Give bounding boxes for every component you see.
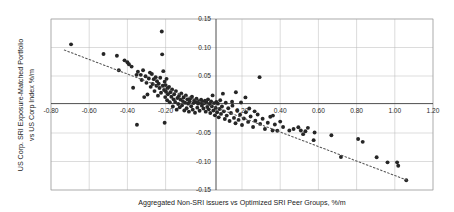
x-tick-label: -0.20 [158,107,173,114]
data-point [154,75,158,79]
data-point [253,109,257,113]
y-tick-label: 0.15 [198,15,211,22]
data-point [251,125,255,129]
data-point [329,133,333,137]
x-tick-label: -0.60 [82,107,97,114]
x-tick-label: -0.80 [43,107,58,114]
data-point [160,52,164,56]
y-tick-label: -0.05 [196,129,211,136]
data-point [193,111,197,115]
data-point [231,104,235,108]
data-point [115,54,119,58]
data-point [220,105,224,109]
data-point [153,89,157,93]
data-point [141,68,145,72]
data-point [224,101,228,105]
data-point [361,140,365,144]
data-point [234,90,238,94]
gridlines [51,19,433,190]
data-point [292,127,296,131]
y-axis-title-line1: US Corp. SRI Exposure-Matched Portfolio [17,39,25,172]
data-point [163,121,167,125]
data-point [131,86,135,90]
data-point [161,69,165,73]
data-point [217,115,221,119]
x-tick-label: 0.80 [350,107,363,114]
data-point [237,118,241,122]
data-point [281,125,285,129]
x-tick-label: 0.60 [312,107,325,114]
data-point [356,137,360,141]
data-point [195,106,199,110]
data-point [189,104,193,108]
data-point [168,100,172,104]
data-point [249,115,253,119]
x-tick-label: 1.00 [388,107,401,114]
data-point [299,128,303,132]
data-point [223,117,227,121]
data-point [278,120,282,124]
data-point [176,102,180,106]
x-tick-label: 1.20 [427,107,440,114]
data-point [256,113,260,117]
data-point [150,72,154,76]
x-tick-label: -0.40 [120,107,135,114]
data-point [208,111,212,115]
data-point [235,109,239,113]
data-point [142,95,146,99]
y-tick-label: 0.05 [198,72,211,79]
data-point [171,105,175,109]
data-point [243,95,247,99]
data-point [207,107,211,111]
y-axis-title-line2: vs US Corp Index %/m [28,69,36,141]
x-tick-label: 0.40 [274,107,287,114]
data-point [312,138,316,142]
data-point [218,98,222,102]
data-point [228,119,232,123]
data-point [156,94,160,98]
data-point [386,160,390,164]
data-point [263,127,267,131]
data-point [167,85,171,89]
data-point [221,92,225,96]
data-point [165,77,169,81]
data-point [187,110,191,114]
data-point [144,74,148,78]
data-point [201,107,205,111]
y-tick-label: -0.10 [196,158,211,165]
data-point [136,70,140,74]
data-point [146,93,150,97]
data-point [216,102,220,106]
data-point [247,107,251,111]
data-point [213,113,217,117]
data-point [160,30,164,34]
data-point [296,125,300,129]
x-axis-title: Aggregated Non-SRI issuers vs Optimized … [138,199,345,207]
data-point [159,91,163,95]
data-point [135,123,139,127]
data-point [158,76,162,80]
data-point [306,126,310,130]
plot-canvas: -0.80-0.60-0.40-0.200.200.400.600.801.00… [0,0,454,212]
data-point [287,128,291,132]
data-point [191,108,195,112]
data-point [244,110,248,114]
data-point [230,100,234,104]
data-point [261,117,265,121]
data-point [139,73,143,77]
data-point [102,52,106,56]
data-point [180,103,184,107]
data-point [225,114,229,118]
data-point [211,93,215,97]
data-point [130,65,134,69]
data-point [395,160,399,164]
data-point [266,121,270,125]
data-point [234,121,238,125]
x-tick-labels: -0.80-0.60-0.40-0.200.200.400.600.801.00… [43,107,439,114]
data-point [375,155,379,159]
data-point [226,106,230,110]
scatter-chart-figure: -0.80-0.60-0.40-0.200.200.400.600.801.00… [0,0,454,212]
y-tick-label: 0.10 [198,44,211,51]
data-point [185,106,189,110]
data-point [239,101,243,105]
